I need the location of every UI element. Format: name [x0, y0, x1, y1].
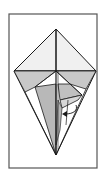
- origami-diagram: [0, 0, 105, 180]
